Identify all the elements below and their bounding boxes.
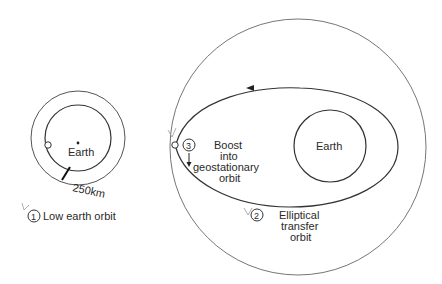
stage-2-label-line-3: orbit — [290, 231, 311, 243]
boost-arrow-head-icon — [187, 162, 192, 167]
orbit-direction-arrow-icon — [246, 85, 254, 91]
left-earth — [45, 105, 111, 171]
geostationary-system: Earth 3 Boost into geostationary orbit 2… — [168, 19, 426, 275]
stage-1-label: Low earth orbit — [43, 210, 116, 222]
left-earth-label: Earth — [68, 146, 94, 158]
right-earth-label: Earth — [316, 140, 342, 152]
earth-center-dot — [77, 142, 80, 145]
stage-2-number: 2 — [254, 211, 259, 221]
altitude-label: 250km — [72, 181, 107, 200]
tick-mark-icon — [22, 203, 29, 210]
stage-3-label-line-4: orbit — [219, 172, 240, 184]
tick-mark-icon — [168, 128, 176, 137]
stage-1-number: 1 — [31, 212, 36, 222]
transfer-orbit-path — [176, 88, 398, 207]
satellite-leo — [45, 142, 51, 148]
orbit-diagram: Earth 250km 1 Low earth orbit Earth 3 Bo… — [0, 0, 442, 284]
stage-3-number: 3 — [186, 141, 191, 151]
low-earth-orbit-system: Earth 250km 1 Low earth orbit — [22, 91, 125, 222]
satellite-geo — [172, 142, 178, 148]
